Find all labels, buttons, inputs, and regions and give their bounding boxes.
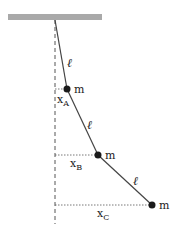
rod-2-length-label: ℓ: [87, 118, 92, 132]
rod-1: [55, 20, 67, 89]
displacement-label-a: xA: [57, 93, 69, 108]
displacement-label-c: xC: [97, 207, 109, 222]
ceiling-support: [8, 14, 102, 20]
displacement-label-b: xB: [70, 157, 82, 172]
mass-b: [95, 152, 102, 159]
triple-pendulum-diagram: ℓ ℓ ℓ m m m xA xB xC: [0, 0, 178, 233]
mass-a-label: m: [74, 83, 85, 96]
mass-a: [64, 86, 71, 93]
mass-c-label: m: [159, 199, 170, 212]
rod-2: [67, 89, 98, 155]
mass-c: [149, 202, 156, 209]
rod-3-length-label: ℓ: [133, 174, 138, 188]
rod-1-length-label: ℓ: [67, 56, 72, 70]
rod-3: [98, 155, 152, 205]
mass-b-label: m: [105, 149, 116, 162]
